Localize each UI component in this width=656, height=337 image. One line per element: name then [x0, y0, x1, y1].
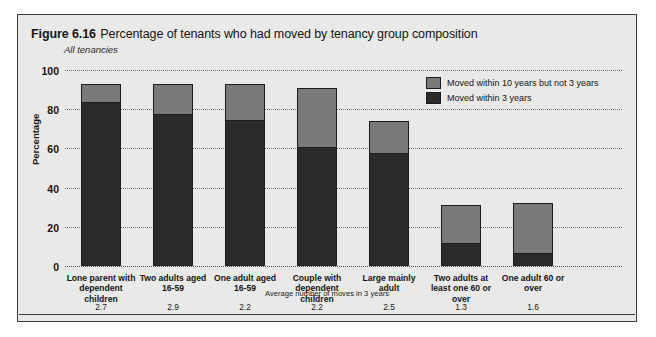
gridline-80: 80: [65, 109, 622, 110]
bar-segment-moved-10-years: [370, 122, 408, 154]
footer-divider: [19, 314, 635, 315]
bar-stack[interactable]: [369, 121, 409, 266]
gridline-100: 100: [65, 70, 622, 71]
bar-segment-moved-10-years: [154, 85, 192, 115]
legend-item-moved-10-years[interactable]: Moved within 10 years but not 3 years: [426, 77, 599, 89]
bar-segment-moved-10-years: [514, 204, 552, 254]
bar-stack[interactable]: [81, 84, 121, 266]
average-moves-value: 2.2: [281, 302, 353, 312]
bar-stack[interactable]: [513, 203, 553, 266]
y-tick-40: 40: [47, 183, 59, 195]
legend: Moved within 10 years but not 3 years Mo…: [426, 77, 599, 107]
average-moves-value: 2.7: [65, 302, 137, 312]
bar-segment-moved-3-years: [370, 154, 408, 265]
bar-stack[interactable]: [153, 84, 193, 266]
legend-swatch-icon: [426, 77, 441, 89]
bar-stack[interactable]: [297, 88, 337, 266]
y-tick-100: 100: [41, 65, 59, 77]
bar-segment-moved-10-years: [298, 89, 336, 149]
legend-item-moved-3-years[interactable]: Moved within 3 years: [426, 92, 599, 104]
figure-subtitle: All tenancies: [64, 44, 611, 55]
average-moves-value: 1.3: [425, 302, 497, 312]
page-title: Percentage of tenants who had moved by t…: [100, 27, 477, 41]
average-moves-caption: Average number of moves in 3 years: [18, 289, 636, 298]
legend-swatch-icon: [426, 92, 441, 104]
y-tick-80: 80: [47, 104, 59, 116]
y-tick-60: 60: [47, 143, 59, 155]
figure-panel: Figure 6.16 Percentage of tenants who ha…: [17, 14, 637, 322]
bar-segment-moved-3-years: [154, 115, 192, 265]
bar-segment-moved-3-years: [514, 254, 552, 265]
bar-segment-moved-3-years: [442, 244, 480, 265]
bar-segment-moved-3-years: [226, 121, 264, 265]
average-moves-value: 2.2: [209, 302, 281, 312]
average-moves-value: 2.9: [137, 302, 209, 312]
average-moves-value: 2.5: [353, 302, 425, 312]
title-block: Figure 6.16 Percentage of tenants who ha…: [31, 24, 611, 55]
legend-label: Moved within 10 years but not 3 years: [447, 78, 599, 88]
bar-segment-moved-10-years: [82, 85, 120, 104]
y-axis-title: Percentage: [30, 114, 41, 165]
bar-segment-moved-3-years: [82, 103, 120, 265]
bar-stack[interactable]: [225, 84, 265, 266]
figure-number: Figure 6.16: [31, 27, 96, 41]
average-moves-value: 1.6: [497, 302, 569, 312]
bar-segment-moved-3-years: [298, 148, 336, 265]
gridline-0: 0: [65, 266, 622, 267]
y-tick-0: 0: [53, 261, 59, 273]
bar-stack[interactable]: [441, 205, 481, 266]
y-tick-20: 20: [47, 222, 59, 234]
bar-segment-moved-10-years: [442, 206, 480, 244]
gridline-40: 40: [65, 188, 622, 189]
legend-label: Moved within 3 years: [447, 93, 532, 103]
bar-segment-moved-10-years: [226, 85, 264, 121]
gridline-60: 60: [65, 148, 622, 149]
